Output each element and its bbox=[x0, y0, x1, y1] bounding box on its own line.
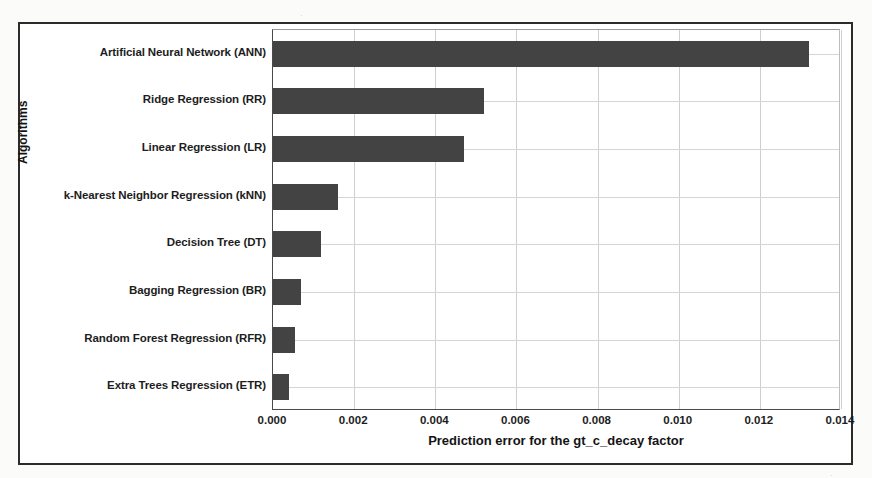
gridline-vertical bbox=[760, 30, 761, 409]
gridline-vertical bbox=[435, 30, 436, 409]
gridline-horizontal bbox=[273, 244, 839, 245]
gridline-horizontal bbox=[273, 387, 839, 388]
gridline-vertical bbox=[598, 30, 599, 409]
x-axis-title: Prediction error for the gt_c_decay fact… bbox=[272, 433, 840, 448]
bar bbox=[273, 279, 301, 305]
gridline-horizontal bbox=[273, 292, 839, 293]
y-axis-tick-label: Decision Tree (DT) bbox=[167, 236, 266, 248]
gridline-vertical bbox=[516, 30, 517, 409]
y-axis-tick-label: Artificial Neural Network (ANN) bbox=[100, 46, 266, 58]
bar bbox=[273, 88, 484, 114]
y-axis-tick-label: k-Nearest Neighbor Regression (kNN) bbox=[64, 189, 266, 201]
bar bbox=[273, 374, 289, 400]
x-axis-tick-label: 0.004 bbox=[420, 414, 449, 426]
chart-figure: Algorithms Artificial Neural Network (AN… bbox=[18, 22, 853, 465]
x-axis-tick-label: 0.000 bbox=[258, 414, 287, 426]
y-axis-tick-label: Random Forest Regression (RFR) bbox=[84, 332, 266, 344]
gridline-vertical bbox=[841, 30, 842, 409]
y-axis-tick-label: Ridge Regression (RR) bbox=[143, 93, 266, 105]
x-axis-tick-label: 0.006 bbox=[501, 414, 530, 426]
y-axis-tick-label: Extra Trees Regression (ETR) bbox=[107, 379, 266, 391]
gridline-horizontal bbox=[273, 197, 839, 198]
gridline-horizontal bbox=[273, 340, 839, 341]
y-axis-tick-labels: Artificial Neural Network (ANN)Ridge Reg… bbox=[20, 29, 266, 410]
bar bbox=[273, 41, 809, 67]
x-axis-tick-label: 0.010 bbox=[663, 414, 692, 426]
gridline-vertical bbox=[354, 30, 355, 409]
bar bbox=[273, 184, 338, 210]
x-axis-tick-label: 0.008 bbox=[582, 414, 611, 426]
bar bbox=[273, 231, 321, 257]
x-axis-tick-label: 0.012 bbox=[744, 414, 773, 426]
plot-area bbox=[272, 29, 840, 410]
gridline-vertical bbox=[679, 30, 680, 409]
x-axis-tick-labels: 0.0000.0020.0040.0060.0080.0100.0120.014 bbox=[20, 414, 851, 432]
x-axis-tick-label: 0.014 bbox=[826, 414, 855, 426]
bar bbox=[273, 136, 464, 162]
y-axis-tick-label: Bagging Regression (BR) bbox=[129, 284, 266, 296]
y-axis-tick-label: Linear Regression (LR) bbox=[142, 141, 266, 153]
x-axis-tick-label: 0.002 bbox=[339, 414, 368, 426]
bar bbox=[273, 327, 295, 353]
